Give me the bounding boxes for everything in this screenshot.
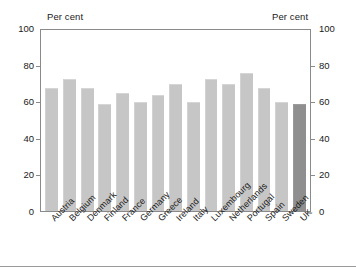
bar-slot [96,30,114,211]
x-axis-category-labels: AustriaBelgiumDenmarkFinlandFranceGerman… [40,212,311,260]
right-y-tick-label: 20 [319,169,330,180]
bar-slot [61,30,79,211]
right-axis-unit-caption: Per cent [272,11,308,22]
left-y-tick-label: 100 [18,23,34,34]
left-y-tick-mark [36,66,40,67]
left-y-tick-label: 80 [23,60,34,71]
bar-series [41,30,310,211]
right-y-tick-label: 60 [319,96,330,107]
right-y-tick-mark [311,175,315,176]
bar-slot [290,30,308,211]
bar-slot [202,30,220,211]
left-y-tick-mark [36,102,40,103]
left-y-tick-label: 0 [29,206,34,217]
right-y-tick-mark [311,139,315,140]
plot-area [40,29,311,212]
right-y-tick-label: 0 [319,206,324,217]
footer-divider [0,266,356,267]
right-y-tick-label: 80 [319,60,330,71]
right-y-tick-mark [311,102,315,103]
right-y-tick-label: 40 [319,133,330,144]
bar-slot [43,30,61,211]
bar-slot [273,30,291,211]
right-y-tick-label: 100 [319,23,335,34]
bar-chart-figure: Per cent Per cent 0020204040606080801001… [0,0,356,273]
bar-france [116,93,129,211]
bar-slot [220,30,238,211]
bar-luxembourg [205,79,218,211]
bar-slot [184,30,202,211]
bar-slot [149,30,167,211]
bar-austria [45,88,58,211]
bar-slot [114,30,132,211]
left-y-tick-mark [36,175,40,176]
bar-germany [134,102,147,211]
bar-sweden [275,102,288,211]
bar-italy [187,102,200,211]
left-axis-unit-caption: Per cent [47,11,83,22]
bar-denmark [81,88,94,211]
left-y-tick-label: 60 [23,96,34,107]
left-y-tick-label: 40 [23,133,34,144]
bar-belgium [63,79,76,211]
bar-ireland [169,84,182,211]
left-y-tick-mark [36,139,40,140]
right-y-tick-mark [311,66,315,67]
left-y-tick-label: 20 [23,169,34,180]
bar-slot [78,30,96,211]
bar-slot [131,30,149,211]
bar-slot [167,30,185,211]
